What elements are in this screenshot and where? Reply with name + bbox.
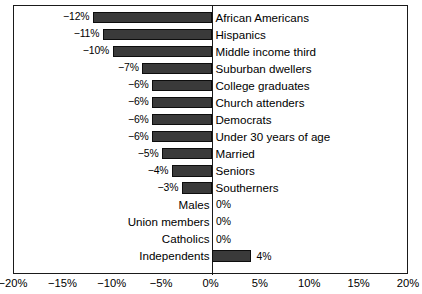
bar-value-label: −6%: [128, 113, 149, 127]
bar-category-label: Males: [179, 197, 210, 212]
bar: [162, 148, 211, 159]
bar-category-label: Under 30 years of age: [216, 129, 331, 144]
bar: [113, 46, 212, 57]
bar-category-label: Catholics: [162, 231, 210, 246]
bar: [103, 29, 212, 40]
bar: [93, 12, 212, 23]
bar-category-label: Married: [216, 146, 255, 161]
bar: [152, 97, 211, 108]
bar-category-label: Middle income third: [216, 44, 317, 59]
bar: [182, 182, 212, 193]
bar-value-label: 0%: [216, 215, 231, 229]
bar-chart: −12%African Americans−11%Hispanics−10%Mi…: [0, 0, 422, 294]
bar-row: 4%Independents: [14, 247, 409, 264]
bar-category-label: Democrats: [216, 112, 272, 127]
bar-value-label: −6%: [128, 95, 149, 109]
bar: [152, 131, 211, 142]
bar-category-label: African Americans: [216, 10, 309, 25]
bar-category-label: Suburban dwellers: [216, 61, 312, 76]
bar-value-label: −7%: [118, 61, 139, 75]
bar-row: −12%African Americans: [14, 8, 409, 25]
bar-value-label: −4%: [148, 164, 169, 178]
bar-row: −6%Church attenders: [14, 93, 409, 110]
plot-area: −12%African Americans−11%Hispanics−10%Mi…: [13, 5, 408, 274]
bar: [142, 63, 211, 74]
bar-value-label: −11%: [74, 27, 100, 41]
bar-value-label: −10%: [83, 44, 109, 58]
bar-row: −5%Married: [14, 144, 409, 161]
x-axis-tick-labels: −20%−15%−10%−5%0%5%10%15%20%: [0, 276, 422, 294]
bar-category-label: Seniors: [216, 163, 255, 178]
bar-value-label: 4%: [257, 250, 272, 264]
bar-value-label: −5%: [138, 147, 159, 161]
bar-category-label: Hispanics: [216, 27, 266, 42]
bar-row: −6%College graduates: [14, 76, 409, 93]
bar: [212, 250, 252, 261]
bar-row: −4%Seniors: [14, 162, 409, 179]
x-axis-tick-label: 20%: [378, 276, 422, 291]
bar-value-label: −6%: [128, 78, 149, 92]
bar-row: −10%Middle income third: [14, 42, 409, 59]
bar-category-label: College graduates: [216, 78, 310, 93]
bar: [172, 165, 212, 176]
bar-category-label: Independents: [139, 248, 209, 263]
bar-row: −6%Under 30 years of age: [14, 127, 409, 144]
bar: [152, 114, 211, 125]
bar-row: −7%Suburban dwellers: [14, 59, 409, 76]
bar-value-label: 0%: [216, 233, 231, 247]
bar-row: −6%Democrats: [14, 110, 409, 127]
bar-row: −3%Southerners: [14, 179, 409, 196]
bar-row: 0%Males: [14, 196, 409, 213]
bar-row: 0%Union members: [14, 213, 409, 230]
bar-value-label: −12%: [63, 10, 89, 24]
bar-category-label: Church attenders: [216, 95, 305, 110]
bar-row: 0%Catholics: [14, 230, 409, 247]
bar-category-label: Union members: [128, 214, 210, 229]
bar-value-label: −3%: [158, 181, 179, 195]
bar-value-label: 0%: [216, 198, 231, 212]
bar: [152, 80, 211, 91]
bar-category-label: Southerners: [216, 180, 279, 195]
bar-value-label: −6%: [128, 130, 149, 144]
bar-row: −11%Hispanics: [14, 25, 409, 42]
